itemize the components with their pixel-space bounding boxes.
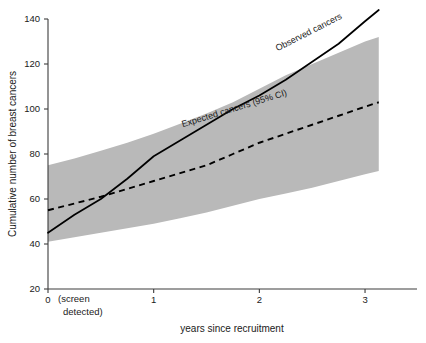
x-tick-label: 0 [45, 294, 50, 305]
x-tick-note-line1: (screen [58, 293, 90, 304]
chart-figure: 20406080100120140 0123 (screen detected)… [0, 0, 426, 343]
y-axis-ticks [44, 19, 48, 289]
confidence-interval-band [48, 37, 379, 242]
x-axis-tick-labels: 0123 [45, 294, 367, 305]
x-tick-note-line2: detected) [63, 306, 103, 317]
y-tick-label: 20 [29, 283, 40, 294]
x-axis-ticks [48, 289, 365, 293]
x-tick-label: 3 [362, 294, 367, 305]
y-tick-label: 40 [29, 238, 40, 249]
chart-canvas: 20406080100120140 0123 (screen detected)… [0, 0, 426, 343]
y-tick-label: 120 [24, 58, 40, 69]
y-tick-label: 80 [29, 148, 40, 159]
y-tick-label: 60 [29, 193, 40, 204]
x-tick-label: 2 [257, 294, 262, 305]
y-axis-tick-labels: 20406080100120140 [24, 13, 40, 294]
x-tick-label: 1 [151, 294, 156, 305]
y-axis-title: Cumulative number of breast cancers [7, 71, 18, 237]
x-axis-title: years since recruitment [180, 323, 284, 334]
y-tick-label: 100 [24, 103, 40, 114]
y-tick-label: 140 [24, 13, 40, 24]
